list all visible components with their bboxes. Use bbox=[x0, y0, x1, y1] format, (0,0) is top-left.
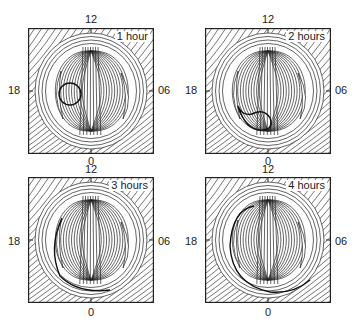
panel-2-hours: 2 hours bbox=[205, 28, 331, 154]
label-top: 12 bbox=[85, 164, 97, 175]
contour-plot bbox=[28, 177, 154, 303]
contour-plot bbox=[205, 28, 331, 154]
label-left: 18 bbox=[185, 236, 197, 247]
label-top: 12 bbox=[262, 164, 274, 175]
label-right: 06 bbox=[335, 85, 347, 96]
panel-3-hours: 3 hours bbox=[28, 177, 154, 303]
panel-title: 4 hours bbox=[286, 180, 327, 191]
contour-plot bbox=[28, 28, 154, 154]
label-right: 06 bbox=[158, 236, 170, 247]
panel-title: 1 hour bbox=[115, 31, 150, 42]
label-right: 06 bbox=[335, 236, 347, 247]
label-top: 12 bbox=[262, 14, 274, 25]
panel-title: 3 hours bbox=[109, 180, 150, 191]
panel-title: 2 hours bbox=[286, 31, 327, 42]
label-bottom: 0 bbox=[265, 307, 271, 318]
label-left: 18 bbox=[8, 85, 20, 96]
panel-1-hour: 1 hour bbox=[28, 28, 154, 154]
label-bottom: 0 bbox=[88, 307, 94, 318]
contour-plot bbox=[205, 177, 331, 303]
label-left: 18 bbox=[8, 236, 20, 247]
panel-4-hours: 4 hours bbox=[205, 177, 331, 303]
label-left: 18 bbox=[185, 85, 197, 96]
label-top: 12 bbox=[85, 14, 97, 25]
label-right: 06 bbox=[158, 85, 170, 96]
